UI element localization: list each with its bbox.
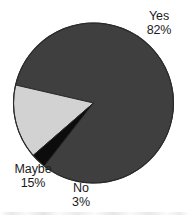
- pie-label-yes-value: 82%: [131, 24, 187, 38]
- pie-label-yes: Yes 82%: [131, 10, 187, 37]
- pie-slices: [13, 23, 173, 183]
- pie-label-no-text: No: [59, 182, 103, 196]
- pie-label-maybe: Maybe 15%: [0, 163, 66, 190]
- pie-label-maybe-value: 15%: [0, 177, 66, 191]
- pie-label-no: No 3%: [59, 182, 103, 209]
- pie-label-yes-text: Yes: [131, 10, 187, 24]
- pie-chart-figure: Yes 82% Maybe 15% No 3%: [0, 0, 189, 219]
- pie-label-no-value: 3%: [59, 196, 103, 210]
- pie-label-maybe-text: Maybe: [0, 163, 66, 177]
